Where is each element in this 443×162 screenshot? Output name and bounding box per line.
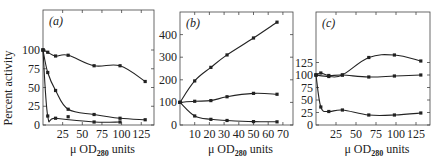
y-axis-label: Percent activity [1,51,15,126]
y-tick-label: 0 [34,118,40,132]
y-tick-label: 125 [295,56,313,70]
x-axis-label: μ OD280 units [70,142,135,158]
x-tick-label: 75 [96,127,108,141]
data-point [419,73,422,76]
y-tick-label: 25 [28,99,40,113]
data-point [193,114,196,117]
x-axis-label: μ OD280 units [344,142,409,158]
data-point [367,75,370,78]
series-curve-upper [180,22,277,102]
series-curve-lower [316,75,421,116]
data-point [393,113,396,116]
data-point [225,95,228,98]
y-tick-label: 75 [28,62,40,76]
data-point [209,118,212,121]
x-tick-label: 50 [248,127,260,141]
y-tick-label: 100 [159,95,177,109]
x-tick-label: 25 [330,127,342,141]
data-point [46,71,49,74]
x-tick-label: 100 [113,127,131,141]
data-point [314,73,317,76]
panel-label: (b) [186,16,200,30]
x-axis-label: μ OD280 units [208,142,273,158]
x-tick-label: 25 [57,127,69,141]
data-point [327,74,330,77]
data-point [209,66,212,69]
y-tick-label: 0 [307,118,313,132]
data-point [193,79,196,82]
x-tick-label: 30 [218,127,230,141]
data-point [118,120,121,123]
y-tick-label: 100 [22,43,40,57]
panel-label: (a) [49,14,63,28]
y-tick-label: 300 [159,50,177,64]
data-point [419,111,422,114]
data-point [118,117,121,120]
y-tick-label: 25 [301,106,313,120]
data-point [54,54,57,57]
data-point [341,108,344,111]
data-point [275,120,278,123]
x-tick-label: 70 [277,127,289,141]
data-point [46,51,49,54]
data-point [393,74,396,77]
data-point [209,99,212,102]
data-point [319,71,322,74]
x-tick-label: 50 [350,127,362,141]
data-point [92,64,95,67]
y-tick-label: 0 [171,118,177,132]
data-point [54,117,57,120]
data-point [67,108,70,111]
data-point [252,120,255,123]
data-point [144,118,147,121]
data-point [193,100,196,103]
x-tick-label: 100 [387,127,405,141]
data-point [393,53,396,56]
x-tick-label: 60 [262,127,274,141]
data-point [46,114,49,117]
data-point [178,101,181,104]
data-point [225,53,228,56]
panel-b: 010020030040010203040506070(b)μ OD280 un… [159,12,293,158]
data-point [144,80,147,83]
x-tick-label: 75 [370,127,382,141]
data-point [327,110,330,113]
data-point [341,73,344,76]
data-point [367,113,370,116]
series-curve-middle [43,50,145,120]
y-tick-label: 200 [159,73,177,87]
panel-c: 0255075100125255075100125(c)μ OD280 unit… [295,12,430,158]
data-point [252,92,255,95]
y-tick-label: 50 [28,81,40,95]
data-point [225,119,228,122]
data-point [67,54,70,57]
data-point [419,59,422,62]
panel-a: 0255075100255075100125(a)μ OD280 units [22,10,154,158]
y-tick-label: 400 [159,28,177,42]
x-tick-label: 50 [76,127,88,141]
data-point [92,120,95,123]
data-point [67,115,70,118]
x-tick-label: 125 [407,127,425,141]
panel-label: (c) [322,16,335,30]
data-point [118,64,121,67]
data-point [275,21,278,24]
x-tick-label: 10 [189,127,201,141]
data-point [92,113,95,116]
x-tick-label: 40 [233,127,245,141]
data-point [275,93,278,96]
x-tick-label: 20 [203,127,215,141]
figure: Percent activity 0255075100255075100125(… [0,0,443,162]
data-point [319,105,322,108]
data-point [41,48,44,51]
y-tick-label: 75 [301,81,313,95]
y-tick-label: 50 [301,93,313,107]
data-point [252,36,255,39]
x-tick-label: 125 [132,127,150,141]
data-point [54,89,57,92]
y-tick-label: 100 [295,68,313,82]
data-point [367,56,370,59]
